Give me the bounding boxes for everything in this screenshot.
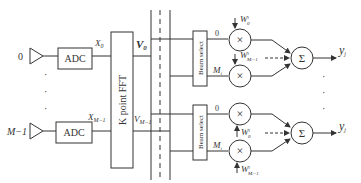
antenna-0-icon: [30, 48, 43, 64]
adc-0-label: ADC: [64, 53, 85, 64]
vm1-label: VM−1: [134, 114, 152, 125]
beam-select-2-label: Beam select: [197, 115, 205, 149]
fft-label: K point FFT: [117, 75, 128, 125]
multiply-2a-icon: ×: [237, 107, 244, 121]
multiply-2b-icon: ×: [237, 144, 244, 158]
sum-1-icon: Σ: [299, 52, 305, 64]
port-mi-1: Mi: [212, 65, 223, 76]
input-0-label: 0: [18, 51, 23, 62]
sum-2-icon: Σ: [299, 127, 305, 139]
port-0-2: 0: [215, 104, 219, 113]
ellipsis-dot: ·: [322, 71, 325, 82]
weight-1-top: Wi0: [240, 14, 250, 26]
adc-m1-label: ADC: [63, 127, 84, 138]
output-2-label: yj: [338, 119, 346, 133]
ellipsis-dot: ·: [44, 103, 47, 114]
beam-select-1-label: Beam select: [197, 41, 205, 75]
ellipsis-dot: ·: [44, 86, 47, 97]
v0-label: V0: [136, 38, 147, 52]
antenna-m1-icon: [30, 123, 43, 139]
weight-2-top: Wi0: [241, 127, 251, 139]
port-0-1: 0: [215, 29, 219, 38]
multiply-1a-icon: ×: [237, 33, 244, 47]
weight-2-bottom: WiMᵢ−1: [241, 164, 259, 176]
port-mi-2: Mi: [212, 140, 223, 151]
beamforming-block-diagram: 0 M−1 ADC ADC X0 XM−1 K point FFT V0 VM−…: [0, 0, 361, 183]
multiply-1b-icon: ×: [237, 69, 244, 83]
input-m1-label: M−1: [6, 126, 27, 137]
ellipsis-dot: ·: [44, 69, 47, 80]
weight-1-bottom: WiMᵢ−1: [240, 50, 258, 62]
ellipsis-dot: ·: [322, 103, 325, 114]
ellipsis-dot: ·: [322, 87, 325, 98]
xm1-label: XM−1: [87, 112, 106, 123]
x0-label: X0: [94, 38, 104, 49]
output-1-label: yj: [338, 43, 346, 57]
